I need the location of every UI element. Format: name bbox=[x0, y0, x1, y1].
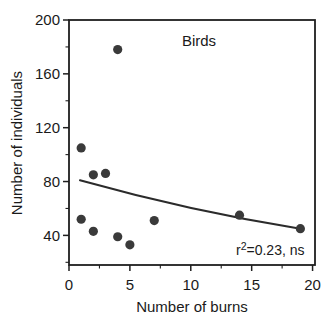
x-tick-label: 20 bbox=[304, 276, 321, 293]
y-tick-label: 80 bbox=[43, 173, 60, 190]
data-point bbox=[89, 170, 98, 179]
scatter-plot: 051015204080120160200 Birds Number of bu… bbox=[0, 0, 332, 326]
data-point bbox=[101, 169, 110, 178]
y-tick-label: 200 bbox=[35, 11, 60, 28]
plot-title: Birds bbox=[182, 32, 216, 49]
y-tick-label: 40 bbox=[43, 227, 60, 244]
x-axis-label: Number of burns bbox=[136, 298, 248, 315]
data-point bbox=[113, 45, 122, 54]
data-layer bbox=[77, 45, 305, 249]
data-point bbox=[77, 143, 86, 152]
y-axis-label: Number of individuals bbox=[8, 71, 25, 215]
data-point bbox=[125, 240, 134, 249]
y-tick-label: 160 bbox=[35, 65, 60, 82]
data-point bbox=[235, 211, 244, 220]
data-point bbox=[113, 232, 122, 241]
y-tick-label: 120 bbox=[35, 119, 60, 136]
data-point bbox=[150, 216, 159, 225]
data-point bbox=[89, 227, 98, 236]
chart-page: 051015204080120160200 Birds Number of bu… bbox=[0, 0, 332, 326]
x-tick-label: 0 bbox=[65, 276, 73, 293]
regression-curve bbox=[80, 180, 300, 228]
data-point bbox=[296, 224, 305, 233]
stats-annotation: r2=0.23, ns bbox=[236, 240, 305, 258]
x-tick-label: 5 bbox=[126, 276, 134, 293]
stats-annotation-value: =0.23, ns bbox=[247, 242, 305, 258]
plot-box bbox=[69, 20, 315, 265]
data-point bbox=[77, 215, 86, 224]
x-tick-label: 15 bbox=[243, 276, 260, 293]
x-tick-label: 10 bbox=[182, 276, 199, 293]
